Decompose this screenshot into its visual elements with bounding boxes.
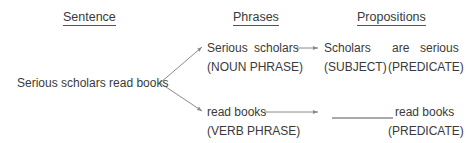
proposition-subject: Scholars [324,41,371,55]
proposition-subject-label: (SUBJECT) [324,60,387,74]
proposition-predicate-label: (PREDICATE) [388,60,464,74]
verb-phrase-text: read books [207,105,266,119]
noun-phrase-label: (NOUN PHRASE) [207,60,303,74]
sentence-text: Serious scholars read books [17,76,168,90]
proposition-predicate-word-2: serious [420,41,459,55]
header-propositions: Propositions [357,10,426,26]
noun-phrase-word-2: scholars [254,41,299,55]
verb-phrase-label: (VERB PHRASE) [207,124,300,138]
noun-phrase-word-1: Serious [207,41,248,55]
header-sentence: Sentence [63,10,116,26]
proposition-predicate-word-1: are [392,41,409,55]
header-phrases: Phrases [233,10,279,26]
proposition-2-predicate-label: (PREDICATE) [388,124,464,138]
proposition-2-predicate: read books [395,105,454,119]
